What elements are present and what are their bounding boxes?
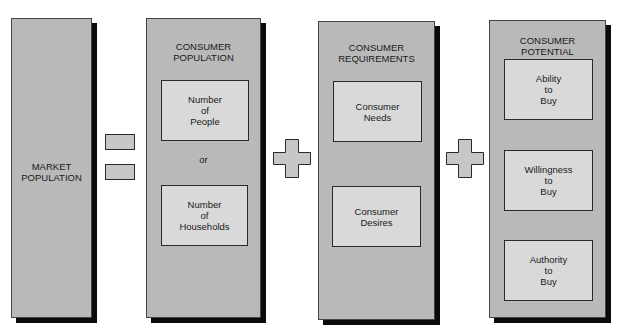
consumer-potential-panel: CONSUMER POTENTIAL Ability to Buy Willin… — [489, 20, 606, 318]
consumer-potential-title: CONSUMER POTENTIAL — [490, 35, 605, 57]
consumer-needs-box: Consumer Needs — [333, 81, 422, 142]
market-population-label: MARKET POPULATION — [12, 161, 91, 183]
consumer-population-title: CONSUMER POPULATION — [147, 41, 260, 63]
plus-sign-icon — [273, 139, 311, 178]
consumer-desires-box: Consumer Desires — [332, 186, 421, 247]
ability-to-buy-box: Ability to Buy — [504, 59, 593, 120]
consumer-population-panel: CONSUMER POPULATION Number of People or … — [146, 18, 261, 318]
plus-sign-icon — [446, 139, 484, 178]
equals-bar-top — [105, 134, 135, 150]
market-population-panel: MARKET POPULATION — [11, 18, 92, 318]
equals-bar-bottom — [105, 164, 135, 180]
or-connector: or — [147, 154, 260, 165]
authority-to-buy-box: Authority to Buy — [504, 240, 593, 301]
willingness-to-buy-box: Willingness to Buy — [504, 150, 593, 211]
consumer-requirements-panel: CONSUMER REQUIREMENTS Consumer Needs Con… — [318, 21, 435, 320]
number-of-people-box: Number of People — [161, 80, 249, 141]
number-of-households-box: Number of Households — [161, 185, 248, 246]
consumer-requirements-title: CONSUMER REQUIREMENTS — [319, 42, 434, 64]
